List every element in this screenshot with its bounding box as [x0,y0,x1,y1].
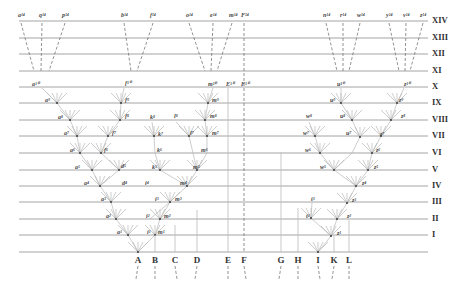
fan-twig [326,226,331,236]
branch-node [153,135,155,137]
branch-node [310,217,312,219]
ancestor-dashed-line [279,266,281,279]
fan-twig [195,110,205,120]
branch-node [56,102,58,104]
dashed-descent-line [137,23,153,71]
node-label: u¹⁰ [337,80,344,87]
dashed-descent-line [211,23,213,71]
branch-node [336,218,338,220]
fan-twig [82,160,92,170]
branch-node [100,152,102,154]
node-label: t² [306,213,309,219]
node-label: F¹⁰ [241,80,249,87]
dashed-descent-line [326,23,337,71]
descendant-label: e¹⁴ [210,12,217,18]
fan-twig [160,160,165,170]
fan-twig [320,143,330,153]
species-label-b: B [152,255,158,265]
fan-twig [363,160,368,170]
node-label: d⁴ [122,180,127,186]
fan-twig [331,226,336,236]
fan-twig [72,126,77,136]
descendant-label: b¹⁴ [121,12,128,18]
fan-twig [311,208,321,218]
node-label: k⁵ [152,164,157,170]
fan-twig [308,242,318,252]
branch-node [120,102,122,104]
node-label: z⁷ [380,131,384,137]
fan-twig [123,225,128,235]
fan-twig [160,192,170,202]
node-label: z⁴ [362,180,366,186]
branch-node [367,169,369,171]
descendant-label: r¹⁴ [340,12,346,18]
fan-twig [133,242,138,252]
node-label: f¹⁰ [125,79,131,86]
species-label-c: C [172,255,179,265]
branch-node [333,169,335,171]
node-label: m¹⁰ [208,80,216,87]
branch-node [314,135,316,137]
tree-branch [80,153,92,170]
dashed-descent-line [189,23,205,71]
fan-twig [111,93,121,103]
fan-twig [368,160,373,170]
fan-twig [138,242,148,252]
fan-twig [100,176,105,186]
node-label: m² [164,213,170,219]
node-label: m¹ [158,229,164,235]
descendant-label: f¹⁴ [150,12,156,18]
descendant-label: q¹⁴ [39,12,46,18]
fan-twig [116,93,121,103]
branch-node [206,135,208,137]
darwin-tree-diagram: XIVXIIIXIIXIXIXVIIIVIIVIVIVIIIIIIABCDEFG… [0,0,458,281]
node-label: z³ [352,197,356,203]
fan-twig [392,93,397,103]
fan-twig [96,143,101,153]
level-label-xiii: XIII [432,32,448,42]
level-label-vi: VI [432,147,441,157]
fan-twig [197,126,207,136]
descendant-label: p¹⁴ [62,12,69,18]
descendant-label: y¹⁴ [386,12,393,18]
fan-twig [165,192,170,202]
descendant-label: a¹⁴ [18,12,25,18]
node-label: l⁸ [174,113,178,119]
fan-twig [103,126,108,136]
dashed-descent-line [389,23,399,71]
node-label: k⁷ [158,131,163,137]
fan-twig [350,127,360,137]
fan-twig [315,126,320,136]
descendant-label: w¹⁴ [357,12,365,18]
fan-twig [77,126,82,136]
fan-twig [334,160,344,170]
branch-node [207,102,209,104]
fan-twig [358,160,368,170]
node-label: d⁵ [121,163,126,169]
node-label: a² [106,213,111,219]
level-label-v: V [432,164,438,174]
fan-twig [321,226,331,236]
fan-twig [110,110,120,120]
level-label-ix: IX [432,97,441,107]
branch-node [115,218,117,220]
ancestor-dashed-line [332,266,334,279]
node-label: m⁵ [193,164,200,170]
fan-twig [138,242,143,252]
fan-twig [356,176,361,186]
branch-node [346,202,348,204]
node-label: m⁷ [212,130,219,136]
dashed-descent-line [217,23,232,71]
descendant-label: m¹⁴ [229,12,238,18]
tree-branch [352,137,360,153]
fan-twig [115,110,120,120]
level-label-xii: XII [432,48,445,58]
branch-node [137,251,139,253]
dashed-descent-line [410,23,423,71]
node-label: a⁶ [70,147,75,153]
species-label-d: D [194,255,201,265]
fan-twig [109,160,119,170]
fan-twig [92,160,102,170]
branch-node [351,119,353,121]
fan-twig [70,110,80,120]
